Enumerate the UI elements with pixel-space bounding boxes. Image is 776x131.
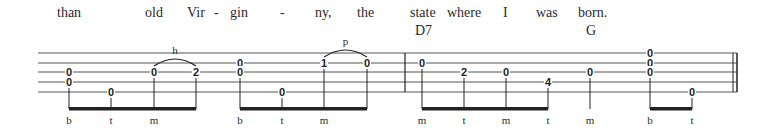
tab-staff [38,53,737,92]
finger-label: t [690,114,693,126]
fret-number: 0 [419,57,425,69]
fret-number: 0 [503,66,509,78]
lyric-word: - [280,5,285,20]
finger-label: t [109,114,112,126]
chord-symbol: D7 [415,23,432,38]
beam [240,107,367,111]
finger-label: m [320,114,329,126]
finger-label: m [150,114,159,126]
fret-number: 0 [151,66,157,78]
lyric-word: I [503,5,508,20]
lyric-word: was [536,5,558,20]
measure-2: 00b0t1m0p [236,35,371,126]
measure-1: 00b0t0m2h [65,44,200,126]
lyrics-line: thanoldVir-gin-ny,thestatewhereIwasborn. [57,5,607,20]
lyric-word: Vir [187,5,205,20]
finger-label: t [546,114,549,126]
lyric-word: born. [578,5,607,20]
fret-number: 0 [364,57,370,69]
finger-label: m [502,114,511,126]
lyric-word: where [447,5,481,20]
fret-number: 0 [66,76,72,88]
fret-number: 2 [461,66,467,78]
lyric-word: gin [230,5,248,20]
technique-label: p [343,35,349,47]
lyric-word: than [57,5,81,20]
fret-number: 2 [193,66,199,78]
fret-number: 1 [321,57,327,69]
finger-label: b [237,114,243,126]
banjo-tablature: thanoldVir-gin-ny,thestatewhereIwasborn.… [0,0,776,131]
fret-number: 0 [279,86,285,98]
finger-label: b [66,114,72,126]
beam [69,107,196,111]
beam [650,107,692,111]
lyric-word: the [357,5,374,20]
fret-number: 0 [689,86,695,98]
finger-label: b [647,114,653,126]
tab-notes: 00b0t0m2h00b0t1m0p0m2t0m4t0m000b0t [65,35,696,126]
lyric-word: old [145,5,163,20]
fret-number: 0 [237,66,243,78]
finger-label: m [418,114,427,126]
finger-label: t [462,114,465,126]
technique-label: h [172,44,178,56]
lyric-word: - [214,5,219,20]
lyric-word: ny, [315,5,332,20]
fret-number: 4 [545,76,552,88]
fret-number: 0 [647,66,653,78]
beam [422,107,548,111]
chord-symbols: D7G [415,23,596,38]
fret-number: 0 [587,66,593,78]
finger-label: m [586,114,595,126]
lyric-word: state [410,5,436,20]
finger-label: t [280,114,283,126]
chord-symbol: G [586,23,596,38]
measure-4: 0m000b0t [586,47,696,126]
fret-number: 0 [108,86,114,98]
